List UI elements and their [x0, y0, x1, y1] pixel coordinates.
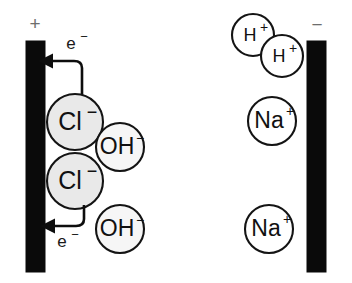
chloride-ion-upper-charge: − [87, 102, 98, 122]
cathode-electrode-bar [307, 41, 326, 272]
anode-electrode-bar [26, 41, 45, 272]
diagram-canvas: + − e − Cl − OH − Cl − e − OH − H + [0, 0, 352, 283]
electron-arrow-lower-charge: − [71, 227, 79, 242]
sodium-ion-upper-charge: + [286, 103, 294, 119]
sodium-ion-upper-label: Na [254, 107, 284, 133]
electron-arrow-upper-charge: − [80, 29, 88, 44]
sodium-ion-lower-label: Na [251, 215, 281, 241]
sodium-ion-lower-charge: + [283, 211, 291, 227]
anode-polarity-label: + [29, 13, 40, 34]
electron-arrow-upper-label: e [66, 34, 75, 53]
hydroxide-ion-lower-label: OH [100, 215, 135, 241]
hydrogen-ion-lower-label: H [273, 46, 286, 66]
cathode-polarity-label: − [311, 14, 322, 35]
chloride-ion-lower-charge: − [87, 161, 98, 181]
hydrogen-ion-lower-charge: + [289, 40, 297, 56]
hydroxide-ion-lower-charge: − [136, 212, 144, 228]
chloride-ion-lower-label: Cl [58, 166, 82, 194]
hydrogen-ion-upper-charge: + [260, 19, 268, 35]
electrolysis-diagram: + − e − Cl − OH − Cl − e − OH − H + [0, 0, 352, 283]
hydroxide-ion-upper-charge: − [136, 130, 144, 146]
electron-arrow-lower-label: e [57, 232, 66, 251]
chloride-ion-upper-label: Cl [58, 107, 82, 135]
hydroxide-ion-upper-label: OH [100, 133, 135, 159]
hydrogen-ion-upper-label: H [244, 25, 257, 45]
